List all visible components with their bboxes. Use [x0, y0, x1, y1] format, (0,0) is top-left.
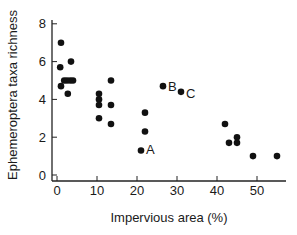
x-tick-label: 10: [90, 183, 104, 198]
data-point: [160, 83, 167, 90]
y-axis-title: Ephemeroptera taxa richness: [5, 10, 20, 180]
data-point: [58, 83, 65, 90]
data-point: [96, 115, 103, 122]
data-point: [274, 153, 281, 160]
point-label-b: B: [168, 79, 177, 94]
data-point: [178, 89, 185, 96]
data-point: [234, 140, 241, 147]
data-point: [57, 64, 64, 71]
data-point: [226, 140, 233, 147]
data-point: [65, 90, 72, 97]
y-tick-label: 0: [39, 168, 46, 183]
data-point: [96, 96, 103, 103]
data-point: [96, 102, 103, 109]
y-tick-label: 4: [39, 92, 46, 107]
data-point: [68, 58, 75, 65]
data-point: [70, 77, 77, 84]
y-tick-label: 6: [39, 54, 46, 69]
point-labels: ABC: [146, 79, 195, 157]
x-tick-label: 0: [53, 183, 60, 198]
axes: 0246801020304050: [39, 16, 286, 198]
data-point: [108, 121, 115, 128]
data-point: [142, 109, 149, 116]
y-tick-label: 8: [39, 16, 46, 31]
data-point: [138, 147, 145, 154]
data-point: [250, 153, 257, 160]
data-point: [108, 102, 115, 109]
data-point: [108, 77, 115, 84]
data-point: [58, 39, 65, 46]
x-axis-title: Impervious area (%): [110, 210, 227, 225]
x-tick-label: 30: [170, 183, 184, 198]
x-tick-label: 50: [250, 183, 264, 198]
data-points: [57, 39, 280, 159]
x-tick-label: 20: [130, 183, 144, 198]
point-label-a: A: [146, 142, 155, 157]
data-point: [142, 128, 149, 135]
x-tick-label: 40: [210, 183, 224, 198]
point-label-c: C: [186, 86, 195, 101]
y-tick-label: 2: [39, 130, 46, 145]
scatter-chart: 0246801020304050 ABC Impervious area (%)…: [0, 0, 297, 235]
data-point: [96, 90, 103, 97]
data-point: [234, 134, 241, 141]
data-point: [222, 121, 229, 128]
